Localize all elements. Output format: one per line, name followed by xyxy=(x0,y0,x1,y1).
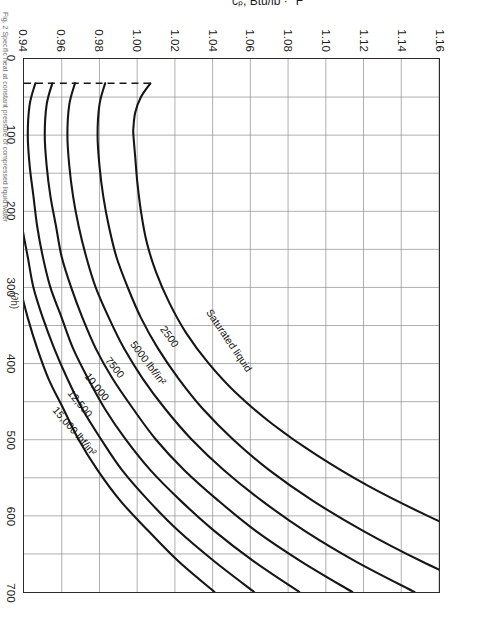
plot-area xyxy=(23,58,440,593)
curve-7500-lbf-in2 xyxy=(45,83,352,592)
y-tick-label: 1.12 xyxy=(358,29,370,52)
y-tick-label: 0.98 xyxy=(93,29,105,52)
y-tick-label: 0.96 xyxy=(55,29,67,52)
curves-layer xyxy=(24,59,439,592)
y-tick-label: 1.00 xyxy=(131,29,143,52)
y-tick-label: 1.10 xyxy=(320,29,332,52)
y-axis-title: cₚ, Btu/lb · °F xyxy=(232,0,303,8)
curve-2500-lbf-in2 xyxy=(98,83,439,592)
figure-stage: 0100200300400500600700 0.940.960.981.001… xyxy=(0,0,494,618)
curve-5000-lbf-in2 xyxy=(67,83,414,592)
curve-saturated-liquid xyxy=(133,83,439,592)
figure-caption: Fig. 2 Specific heat at constant pressur… xyxy=(1,12,10,612)
y-tick-label: 1.04 xyxy=(207,29,219,52)
y-tick-label: 1.16 xyxy=(434,29,446,52)
y-axis-title-text: cₚ, Btu/lb · °F xyxy=(232,0,303,8)
y-tick-label: 1.14 xyxy=(396,29,408,52)
y-tick-label: 1.06 xyxy=(244,29,256,52)
y-tick-label: 1.08 xyxy=(282,29,294,52)
y-tick-label: 0.94 xyxy=(17,29,29,52)
partial-derivative-annotation: (∂h) xyxy=(9,292,20,309)
y-tick-label: 1.02 xyxy=(169,29,181,52)
